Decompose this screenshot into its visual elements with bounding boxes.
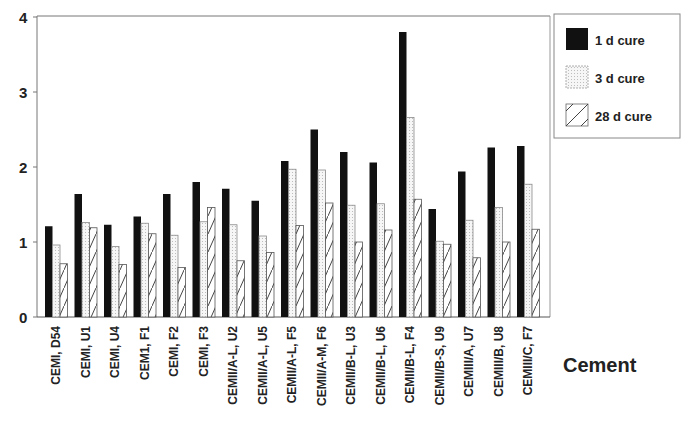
bar-dotted	[82, 223, 90, 318]
x-category-label: CEMII/A-L, U2	[226, 326, 240, 405]
y-tick-label: 3	[19, 84, 27, 101]
bar-group	[340, 152, 363, 317]
x-category-label: CEMII/A-M, F6	[315, 326, 329, 406]
bar-solid	[399, 32, 407, 317]
bar-solid	[311, 130, 319, 318]
bar-hatched	[414, 199, 422, 317]
legend: 1 d cure 3 d cure 28 d cure	[554, 14, 680, 138]
y-tick-label: 1	[19, 234, 27, 251]
bar-group	[399, 32, 422, 317]
bar-group	[370, 163, 393, 318]
bar-hatched	[149, 234, 157, 317]
bar-hatched	[532, 229, 540, 317]
bar-dotted	[171, 235, 179, 317]
bar-solid	[134, 217, 142, 318]
y-tick-label: 4	[19, 9, 28, 26]
bar-hatched	[473, 258, 481, 317]
bar-solid	[45, 226, 53, 317]
bar-dotted	[289, 169, 297, 317]
x-category-label: CEMI, D54	[49, 326, 63, 385]
bar-solid	[429, 209, 437, 317]
bar-group	[163, 194, 186, 317]
bar-chart: 01234 CEMI, D54CEMI, U1CEMI, U4CEM1, F1C…	[0, 0, 686, 437]
y-tick-label: 2	[19, 159, 27, 176]
bar-dotted	[230, 225, 238, 317]
x-category-label: CEMII/A-L, F5	[285, 326, 299, 404]
legend-label: 28 d cure	[595, 109, 652, 124]
bar-series	[45, 32, 540, 317]
bar-dotted	[200, 222, 208, 317]
bar-hatched	[267, 253, 275, 318]
legend-swatch-dotted-icon	[566, 66, 588, 88]
x-category-label: CEM1, F1	[138, 326, 152, 380]
bar-dotted	[525, 184, 533, 317]
bar-group	[517, 146, 540, 317]
bar-group	[45, 226, 68, 317]
bar-group	[222, 189, 245, 317]
bar-dotted	[436, 241, 444, 317]
x-category-label: CEMI, F3	[197, 326, 211, 377]
y-tick-label: 0	[19, 309, 27, 326]
bar-hatched	[60, 264, 68, 317]
bar-solid	[488, 148, 496, 318]
bar-solid	[104, 225, 112, 317]
bar-hatched	[326, 203, 334, 317]
x-axis-title: Cement	[563, 354, 637, 376]
bar-group	[75, 194, 98, 317]
bar-group	[458, 172, 481, 318]
bar-group	[488, 148, 511, 318]
bar-dotted	[141, 223, 149, 317]
bar-dotted	[348, 205, 356, 317]
bar-group	[104, 225, 127, 317]
bar-hatched	[90, 228, 98, 317]
bar-dotted	[318, 170, 326, 317]
x-category-label: CEMII/B-L, U6	[374, 326, 388, 405]
x-category-label: CEMI, U4	[108, 326, 122, 378]
bar-solid	[281, 161, 289, 317]
bar-dotted	[407, 118, 415, 318]
bar-group	[134, 217, 157, 318]
x-axis-category-labels: CEMI, D54CEMI, U1CEMI, U4CEM1, F1CEMI, F…	[49, 326, 535, 406]
x-category-label: CEMII/B-S, U9	[433, 326, 447, 406]
bar-group	[311, 130, 334, 318]
bar-solid	[193, 182, 201, 317]
bar-hatched	[355, 242, 363, 317]
x-category-label: CEMI, U1	[79, 326, 93, 378]
x-category-label: CEMII/B-L, U3	[344, 326, 358, 405]
bar-hatched	[385, 230, 393, 317]
bar-solid	[458, 172, 466, 318]
bar-hatched	[178, 268, 186, 318]
bar-dotted	[495, 208, 503, 318]
legend-swatch-solid-icon	[566, 28, 588, 50]
bar-solid	[517, 146, 525, 317]
bar-group	[281, 161, 304, 317]
bar-hatched	[503, 242, 511, 317]
bar-solid	[252, 201, 260, 317]
x-category-label: CEMII/A-L, U5	[256, 326, 270, 405]
bar-solid	[163, 194, 171, 317]
bar-dotted	[377, 204, 385, 317]
bar-hatched	[119, 265, 127, 318]
bar-solid	[222, 189, 230, 317]
bar-dotted	[259, 236, 267, 317]
legend-label: 1 d cure	[595, 33, 645, 48]
bar-group	[429, 209, 452, 317]
x-category-label: CEMII/B-L, F4	[403, 326, 417, 404]
bar-solid	[340, 152, 348, 317]
y-axis-ticks: 01234	[19, 9, 37, 326]
bar-hatched	[208, 208, 216, 318]
bar-solid	[370, 163, 378, 318]
bar-dotted	[53, 245, 61, 317]
legend-label: 3 d cure	[595, 71, 645, 86]
bar-solid	[75, 194, 83, 317]
x-category-label: CEMIII/C, F7	[521, 326, 535, 396]
bar-dotted	[112, 247, 120, 318]
bar-group	[252, 201, 275, 317]
bar-hatched	[444, 244, 452, 317]
x-category-label: CEMIII/A, U7	[462, 326, 476, 397]
x-category-label: CEMI, F2	[167, 326, 181, 377]
bar-hatched	[237, 261, 245, 317]
bar-dotted	[466, 220, 474, 317]
bar-hatched	[296, 226, 304, 318]
x-category-label: CEMIII/B, U8	[492, 326, 506, 397]
